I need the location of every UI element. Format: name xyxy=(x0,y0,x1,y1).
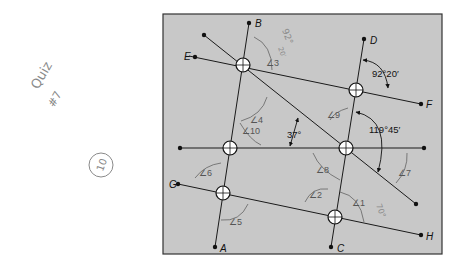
angle-4-label: ∠4 xyxy=(250,115,263,125)
angle-1-label: ∠1 xyxy=(352,198,365,208)
angle-value-92-20: 92°20′ xyxy=(372,68,399,79)
intersection-marker xyxy=(339,141,353,155)
label-E: E xyxy=(184,51,191,62)
label-H: H xyxy=(426,231,434,242)
angle-8-label: ∠8 xyxy=(316,165,329,175)
quiz-number: #7 xyxy=(45,89,64,110)
handwritten-quiz-label: Quiz #7 xyxy=(28,59,65,110)
angle-6-label: ∠6 xyxy=(199,168,212,178)
angle-2-label: ∠2 xyxy=(309,190,322,200)
geometry-diagram: Quiz #7 10 B A D C E F G H xyxy=(0,0,450,270)
label-C: C xyxy=(337,243,345,254)
label-G: G xyxy=(169,179,177,190)
angle-9-label: ∠9 xyxy=(327,110,340,120)
label-F: F xyxy=(426,99,433,110)
intersection-marker xyxy=(236,58,250,72)
label-B: B xyxy=(255,18,262,29)
angle-7-label: ∠7 xyxy=(398,168,411,178)
intersection-marker xyxy=(216,186,230,200)
angle-value-37: 37° xyxy=(287,129,302,140)
score-value: 10 xyxy=(94,157,109,173)
intersection-marker xyxy=(328,210,342,224)
angle-3-label: ∠3 xyxy=(266,58,279,68)
label-A: A xyxy=(219,243,227,254)
intersection-marker xyxy=(223,141,237,155)
angle-value-119-45: 119°45′ xyxy=(369,124,401,135)
intersection-marker xyxy=(349,83,363,97)
angle-5-label: ∠5 xyxy=(229,217,242,227)
score-circle: 10 xyxy=(89,153,113,177)
label-D: D xyxy=(370,35,377,46)
quiz-title: Quiz xyxy=(28,59,56,92)
angle-10-label: ∠10 xyxy=(242,126,260,136)
